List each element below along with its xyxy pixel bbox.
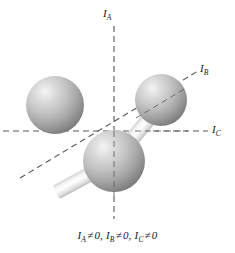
figure-caption: IA≠0, IB≠0, IC≠0 <box>0 230 235 244</box>
axis-ic-subscript: C <box>216 129 221 138</box>
atoms-group <box>26 74 187 192</box>
caption-term-c-value: 0 <box>152 229 158 241</box>
axis-ib-subscript: B <box>204 68 209 77</box>
axis-ia-subscript: A <box>107 13 112 22</box>
axis-label-ia: IA <box>103 8 111 22</box>
caption-term-c-sub: C <box>138 235 143 244</box>
atom-right <box>135 74 187 126</box>
molecule-diagram-svg <box>0 0 235 253</box>
caption-relation-c: ≠ <box>144 229 152 241</box>
caption-term-a-value: 0, <box>94 229 103 241</box>
atom-left <box>26 76 84 134</box>
axis-label-ib: IB <box>200 63 208 77</box>
caption-term-b-value: 0, <box>123 229 132 241</box>
caption-relation-b: ≠ <box>115 229 123 241</box>
figure-container: IA IB IC IA≠0, IB≠0, IC≠0 <box>0 0 235 253</box>
axis-label-ic: IC <box>212 124 221 138</box>
caption-term-b-sub: B <box>110 235 115 244</box>
